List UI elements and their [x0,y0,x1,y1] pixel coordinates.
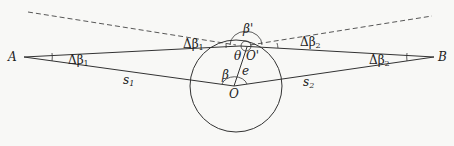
label-B: B [437,50,447,64]
line-B-to-O [234,57,434,86]
geometry-diagram: A B Δβ1 Δβ1 Δβ2 Δβ2 β' θ O' e β O s1 s2 [0,0,454,146]
angle-arc-delta-beta2-top [277,43,278,48]
label-theta: θ [234,49,242,63]
label-O-prime: O' [246,49,259,63]
line-A-to-top [24,46,240,57]
line-B-to-top [240,46,434,57]
label-delta-beta1-A: Δβ1 [68,53,89,68]
dashed-line-left [28,12,236,45]
label-O: O [229,87,239,101]
label-e: e [242,64,249,78]
label-delta-beta2-top: Δβ2 [300,35,321,50]
label-beta: β [221,68,229,82]
label-delta-beta1-top: Δβ1 [183,37,204,52]
label-beta-prime: β' [242,22,253,36]
label-s2: s2 [303,75,314,90]
dashed-line-right [250,16,432,45]
label-delta-beta2-B: Δβ2 [369,53,390,68]
label-s1: s1 [123,73,134,88]
label-A: A [7,50,17,64]
